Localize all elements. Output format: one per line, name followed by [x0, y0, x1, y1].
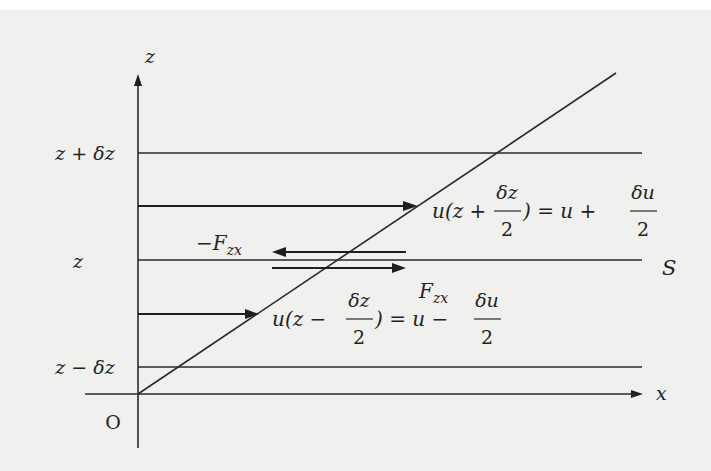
formula-lower-frac2-num: δu [475, 289, 499, 311]
level-label-middle: z [72, 250, 84, 272]
diagram-canvas: z x O z + δz z z − δz S [0, 0, 711, 471]
formula-upper-frac2-den: 2 [637, 218, 649, 240]
level-label-upper: z + δz [54, 142, 115, 164]
formula-upper-prefix: u(z + [432, 199, 486, 223]
formula-lower-suffix: ) = u − [374, 307, 448, 331]
shear-flow-diagram: z x O z + δz z z − δz S [0, 0, 711, 471]
top-margin [0, 0, 711, 10]
z-axis-label: z [144, 45, 156, 67]
x-axis-label: x [656, 382, 667, 404]
formula-upper-frac1-den: 2 [501, 218, 513, 240]
origin-label: O [105, 411, 121, 433]
formula-lower-frac1-num: δz [348, 289, 370, 311]
formula-lower-frac2-den: 2 [481, 326, 493, 348]
formula-lower-prefix: u(z − [272, 307, 326, 331]
formula-upper-suffix: ) = u + [522, 199, 596, 223]
plane-label: S [662, 256, 676, 280]
level-label-lower: z − δz [54, 356, 115, 378]
formula-upper-frac2-num: δu [631, 181, 655, 203]
paper-background [0, 10, 711, 471]
formula-upper-frac1-num: δz [496, 181, 518, 203]
formula-lower-frac1-den: 2 [353, 326, 365, 348]
